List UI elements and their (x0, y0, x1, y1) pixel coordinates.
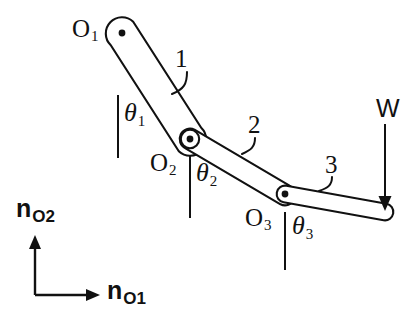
link-label-3: 3 (325, 152, 338, 177)
joint-O2 (181, 130, 199, 148)
link-label-2: 2 (248, 112, 261, 137)
joint-O3 (282, 191, 289, 198)
joint-label-O2: O2 (150, 150, 177, 178)
axis-label-nO2: nO2 (16, 196, 55, 225)
coordinate-frame (29, 235, 100, 301)
joint-O1 (119, 30, 126, 37)
axis-horizontal-arrowhead (86, 289, 100, 301)
figure-canvas: O1 O2 O3 1 2 3 θ1 θ2 θ3 W nO2 nO1 (0, 0, 415, 324)
link-3-leader (319, 177, 332, 191)
axis-label-nO1: nO1 (107, 278, 146, 307)
load-arrow-W (379, 124, 392, 211)
link-2-leader (242, 138, 255, 154)
angle-label-theta3: θ3 (292, 213, 313, 242)
angle-label-theta2: θ2 (196, 160, 217, 189)
link-label-1: 1 (175, 46, 188, 71)
joint-label-O1: O1 (72, 16, 99, 44)
axis-vertical-arrowhead (29, 235, 41, 249)
joint-label-O3: O3 (245, 205, 272, 233)
load-label-W: W (376, 96, 400, 121)
angle-label-theta1: θ1 (124, 100, 145, 129)
